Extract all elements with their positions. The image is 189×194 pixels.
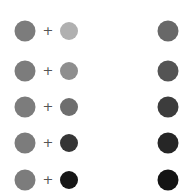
mix-row-5: + [0, 168, 189, 192]
result-color-circle [158, 97, 179, 118]
base-color-circle [15, 61, 36, 82]
base-color-circle [15, 97, 36, 118]
result-color-circle [158, 21, 179, 42]
mix-row-2: + [0, 59, 189, 83]
plus-sign: + [43, 136, 54, 149]
added-color-circle [60, 171, 78, 189]
plus-sign: + [43, 24, 54, 37]
plus-sign: + [43, 100, 54, 113]
added-color-circle [60, 22, 78, 40]
result-color-circle [158, 61, 179, 82]
added-color-circle [60, 134, 78, 152]
added-color-circle [60, 62, 78, 80]
plus-sign: + [43, 173, 54, 186]
base-color-circle [15, 133, 36, 154]
added-color-circle [60, 98, 78, 116]
base-color-circle [15, 170, 36, 191]
mix-row-1: + [0, 19, 189, 43]
result-color-circle [158, 170, 179, 191]
result-color-circle [158, 133, 179, 154]
mix-row-3: + [0, 95, 189, 119]
mix-row-4: + [0, 131, 189, 155]
plus-sign: + [43, 64, 54, 77]
base-color-circle [15, 21, 36, 42]
